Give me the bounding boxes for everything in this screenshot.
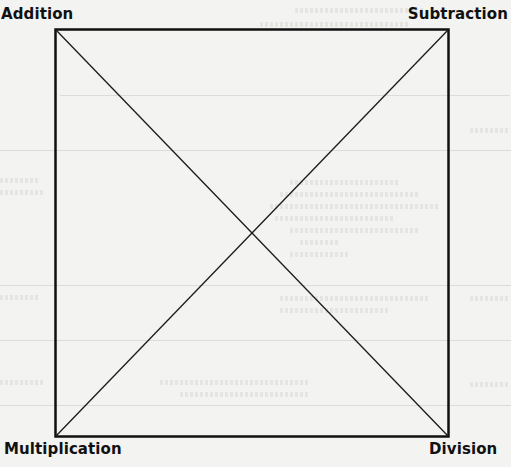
label-multiplication: Multiplication <box>4 440 122 458</box>
label-addition: Addition <box>1 5 73 23</box>
document-page: Addition Subtraction Multiplication Divi… <box>0 0 511 467</box>
label-subtraction: Subtraction <box>408 5 508 23</box>
label-division: Division <box>429 440 497 458</box>
square-diagram <box>0 0 511 467</box>
